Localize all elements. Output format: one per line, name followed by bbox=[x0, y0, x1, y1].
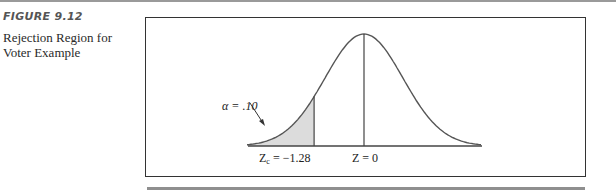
arrow-head-icon bbox=[259, 119, 265, 126]
mean-label: Z = 0 bbox=[352, 151, 378, 165]
alpha-label: α = .10 bbox=[222, 99, 257, 113]
normal-curve-chart: α = .10 Zc = −1.28 Z = 0 bbox=[0, 0, 616, 195]
critical-value-label: Zc = −1.28 bbox=[259, 151, 310, 166]
